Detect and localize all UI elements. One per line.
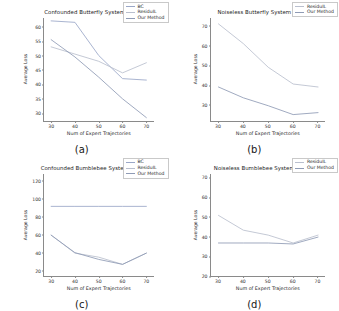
x-tick-b: 70 bbox=[315, 124, 321, 129]
y-tick-c: 20 bbox=[35, 268, 41, 273]
curves-b bbox=[211, 18, 326, 121]
y-tick-b: 30 bbox=[202, 102, 208, 107]
x-axis-label-c: Num of Expert Trajectories bbox=[44, 286, 154, 291]
legend-a: BCResiduILOur Method bbox=[123, 2, 169, 23]
legend-label: Our Method bbox=[307, 10, 334, 15]
legend-label: Our Method bbox=[137, 16, 164, 21]
x-tick-d: 70 bbox=[315, 279, 321, 284]
y-tick-a: 55 bbox=[35, 39, 41, 44]
axes-b: Average Loss Num of Expert Trajectories … bbox=[210, 18, 326, 122]
axes-a: Average Loss Num of Expert Trajectories … bbox=[43, 18, 154, 122]
y-tick-b: 50 bbox=[202, 63, 208, 68]
y-tick-a: 30 bbox=[35, 111, 41, 116]
y-axis-label-c: Average Loss bbox=[23, 210, 28, 240]
y-axis-label-a: Average Loss bbox=[23, 54, 28, 84]
legend-line-icon bbox=[295, 6, 304, 7]
legend-line-icon bbox=[295, 168, 304, 169]
legend-line-icon bbox=[126, 6, 135, 7]
x-axis-label-a: Num of Expert Trajectories bbox=[44, 131, 154, 136]
legend-label: Our Method bbox=[307, 166, 334, 171]
x-tick-a: 50 bbox=[96, 124, 102, 129]
y-tick-d: 40 bbox=[202, 234, 208, 239]
legend-line-icon bbox=[126, 173, 135, 174]
x-tick-a: 30 bbox=[48, 124, 54, 129]
x-axis-label-d: Num of Expert Trajectories bbox=[211, 286, 326, 291]
legend-entry-bc: BC bbox=[126, 160, 165, 165]
legend-c: BCResiduILOur Method bbox=[123, 158, 169, 179]
y-tick-c: 100 bbox=[32, 196, 41, 201]
x-tick-b: 60 bbox=[290, 124, 296, 129]
series-line-residuil bbox=[218, 24, 318, 87]
legend-entry-our-method: Our Method bbox=[126, 172, 165, 177]
legend-b: ResiduILOur Method bbox=[292, 2, 338, 17]
legend-line-icon bbox=[126, 168, 135, 169]
x-tick-d: 60 bbox=[290, 279, 296, 284]
subplot-d: Noiseless Bumblebee System Average Loss … bbox=[170, 156, 339, 311]
legend-entry-residuil: ResiduIL bbox=[126, 166, 165, 171]
panel-label-c: (c) bbox=[0, 299, 170, 310]
x-tick-a: 60 bbox=[120, 124, 126, 129]
y-tick-c: 40 bbox=[35, 250, 41, 255]
y-tick-a: 35 bbox=[35, 96, 41, 101]
figure-grid: Confounded Butterfly System Average Loss… bbox=[0, 0, 339, 311]
y-tick-c: 120 bbox=[32, 178, 41, 183]
legend-line-icon bbox=[295, 162, 304, 163]
x-tick-b: 50 bbox=[265, 124, 271, 129]
legend-d: ResiduILOur Method bbox=[292, 158, 338, 173]
legend-entry-residuil: ResiduIL bbox=[295, 160, 334, 165]
x-tick-c: 70 bbox=[143, 279, 149, 284]
subplot-b: Noiseless Butterfly System Average Loss … bbox=[170, 0, 339, 156]
y-tick-d: 50 bbox=[202, 214, 208, 219]
subplot-a: Confounded Butterfly System Average Loss… bbox=[0, 0, 170, 156]
x-tick-a: 70 bbox=[143, 124, 149, 129]
y-tick-d: 60 bbox=[202, 195, 208, 200]
series-line-our-method bbox=[51, 235, 146, 264]
legend-entry-our-method: Our Method bbox=[295, 166, 334, 171]
legend-label: Our Method bbox=[137, 172, 164, 177]
x-tick-a: 40 bbox=[72, 124, 78, 129]
axes-d: Average Loss Num of Expert Trajectories … bbox=[210, 174, 326, 278]
legend-label: ResiduIL bbox=[307, 160, 326, 165]
legend-line-icon bbox=[126, 12, 135, 13]
x-tick-b: 40 bbox=[240, 124, 246, 129]
y-tick-c: 60 bbox=[35, 232, 41, 237]
axes-c: Average Loss Num of Expert Trajectories … bbox=[43, 174, 154, 278]
x-tick-c: 50 bbox=[96, 279, 102, 284]
x-axis-label-b: Num of Expert Trajectories bbox=[211, 131, 326, 136]
x-tick-c: 60 bbox=[120, 279, 126, 284]
legend-entry-our-method: Our Method bbox=[126, 16, 165, 21]
x-tick-b: 30 bbox=[215, 124, 221, 129]
x-tick-d: 30 bbox=[215, 279, 221, 284]
subplot-c: Confounded Bumblebee System Average Loss… bbox=[0, 156, 170, 311]
y-tick-b: 60 bbox=[202, 43, 208, 48]
legend-line-icon bbox=[126, 162, 135, 163]
panel-label-a: (a) bbox=[0, 144, 170, 155]
y-tick-d: 20 bbox=[202, 274, 208, 279]
legend-entry-our-method: Our Method bbox=[295, 10, 334, 15]
y-tick-b: 40 bbox=[202, 83, 208, 88]
y-tick-a: 60 bbox=[35, 24, 41, 29]
x-tick-d: 50 bbox=[265, 279, 271, 284]
y-tick-a: 50 bbox=[35, 53, 41, 58]
y-tick-d: 70 bbox=[202, 175, 208, 180]
y-tick-d: 30 bbox=[202, 254, 208, 259]
curves-a bbox=[44, 18, 154, 121]
series-line-residuil bbox=[218, 215, 318, 243]
series-line-our-method bbox=[218, 87, 318, 115]
legend-line-icon bbox=[295, 12, 304, 13]
y-tick-b: 70 bbox=[202, 23, 208, 28]
x-tick-d: 40 bbox=[240, 279, 246, 284]
curves-d bbox=[211, 174, 326, 277]
panel-label-b: (b) bbox=[170, 144, 339, 155]
series-line-residuil bbox=[51, 47, 146, 73]
panel-label-d: (d) bbox=[170, 299, 339, 310]
y-tick-a: 40 bbox=[35, 82, 41, 87]
series-line-our-method bbox=[218, 237, 318, 244]
x-tick-c: 40 bbox=[72, 279, 78, 284]
y-axis-label-b: Average Loss bbox=[192, 54, 197, 84]
y-tick-a: 45 bbox=[35, 67, 41, 72]
legend-label: BC bbox=[137, 160, 143, 165]
x-tick-c: 30 bbox=[48, 279, 54, 284]
legend-line-icon bbox=[126, 18, 135, 19]
y-axis-label-d: Average Loss bbox=[192, 210, 197, 240]
